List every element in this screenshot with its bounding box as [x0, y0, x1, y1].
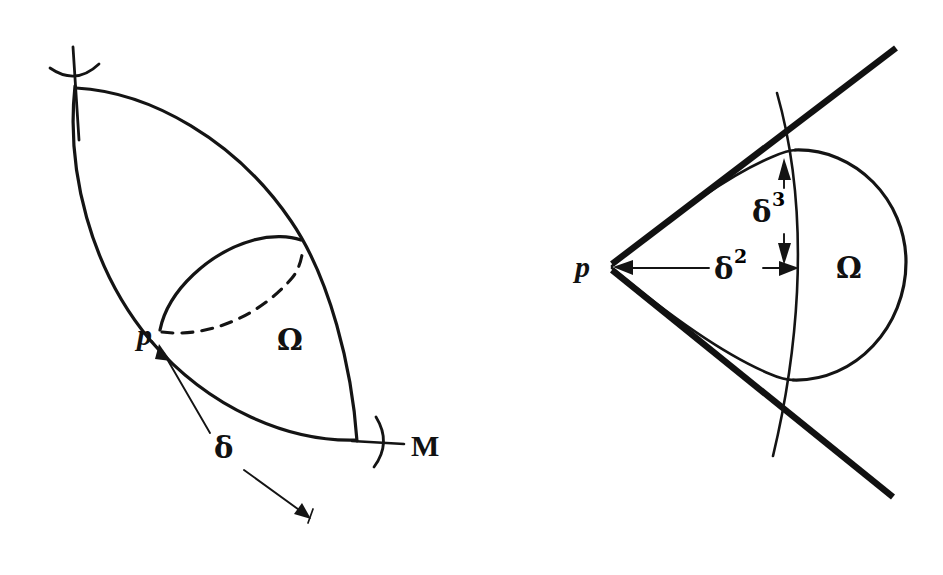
left-panel-group: p Ω M δ	[50, 47, 439, 523]
omega-hidden-boundary-curve	[162, 247, 303, 333]
left-point-p-label: p	[134, 318, 152, 351]
left-omega-label: Ω	[277, 323, 303, 357]
delta-lower-arrowhead-icon	[294, 503, 311, 519]
cusp-upper-ray	[612, 48, 896, 264]
cusp-lower-boundary-curve	[612, 268, 794, 380]
delta-lower-leader-line	[244, 470, 302, 512]
delta-cubed-exponent-label: 3	[772, 188, 785, 210]
right-omega-label: Ω	[836, 251, 862, 285]
delta-cubed-base-label: δ	[752, 195, 771, 229]
m-boundary-stem	[352, 441, 404, 444]
delta-squared-base-label: δ	[714, 252, 733, 286]
delta-squared-exponent-label: 2	[734, 245, 747, 267]
manifold-m-label: M	[411, 429, 439, 462]
delta-cubed-upper-arrowhead-icon	[778, 158, 791, 180]
lens-right-boundary-curve	[76, 88, 357, 441]
right-panel-group: p δ 2 δ 3 Ω	[572, 48, 906, 497]
cusp-lower-ray	[612, 270, 893, 497]
delta-squared-right-arrowhead-icon	[779, 261, 799, 276]
diagram-canvas: p Ω M δ	[0, 0, 943, 575]
figure-root: p Ω M δ	[0, 0, 943, 575]
delta-upper-leader-line	[163, 352, 210, 433]
delta-label: δ	[214, 431, 233, 465]
right-point-p-label: p	[572, 250, 590, 283]
omega-solid-boundary-curve	[160, 237, 301, 330]
